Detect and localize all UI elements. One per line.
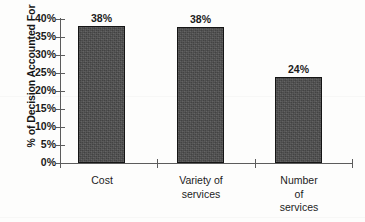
x-tick-mark bbox=[255, 159, 256, 168]
y-tick-label-15: 15% bbox=[16, 108, 56, 109]
y-tick-mark bbox=[56, 127, 65, 128]
x-axis-line bbox=[60, 163, 353, 164]
y-tick-mark bbox=[56, 145, 65, 146]
y-tick-mark bbox=[56, 91, 65, 92]
bar-value-label-variety-of-services: 38% bbox=[177, 13, 224, 25]
y-tick-label-25: 25% bbox=[16, 72, 56, 73]
x-category-label-cost: Cost bbox=[62, 174, 142, 188]
y-tick-label-40: 40% bbox=[16, 18, 56, 19]
y-tick-label-20: 20% bbox=[16, 90, 56, 91]
x-category-label-variety-of-services: Variety of services bbox=[161, 174, 241, 201]
x-tick-mark bbox=[157, 159, 158, 168]
x-tick-mark bbox=[352, 159, 353, 168]
chart-screenshot: % of Decision Accounted For 0% 5% 10% 15… bbox=[0, 0, 365, 222]
y-tick-mark bbox=[56, 37, 65, 38]
x-tick-mark bbox=[60, 159, 61, 168]
y-tick-mark bbox=[56, 55, 65, 56]
y-tick-label-30: 30% bbox=[16, 54, 56, 55]
scan-artifact bbox=[0, 217, 365, 218]
y-tick-label-5: 5% bbox=[16, 144, 56, 145]
y-tick-label-10: 10% bbox=[16, 126, 56, 127]
y-tick-label-0: 0% bbox=[16, 162, 56, 163]
bar-variety-of-services bbox=[177, 27, 224, 163]
bar-number-of-services bbox=[275, 77, 322, 163]
bar-value-label-number-of-services: 24% bbox=[275, 63, 322, 75]
y-tick-mark bbox=[56, 73, 65, 74]
x-category-label-number-of-services: Number of services bbox=[259, 174, 339, 215]
y-tick-label-35: 35% bbox=[16, 36, 56, 37]
y-tick-mark bbox=[56, 109, 65, 110]
bar-value-label-cost: 38% bbox=[78, 12, 125, 24]
y-tick-mark bbox=[56, 19, 65, 20]
y-axis-title: % of Decision Accounted For bbox=[25, 0, 37, 161]
bar-cost bbox=[78, 26, 125, 163]
